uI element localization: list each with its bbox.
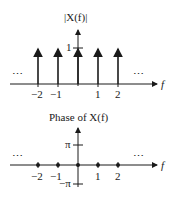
phase-ellipsis-right: ⋯ xyxy=(133,151,144,162)
magnitude-x-axis-label: f xyxy=(161,79,164,90)
phase-y-tick-top: π xyxy=(65,139,71,150)
phase-x-tick-label: 2 xyxy=(115,171,121,182)
magnitude-x-tick-label: −2 xyxy=(31,89,43,100)
magnitude-ellipsis-left: ⋯ xyxy=(12,69,23,80)
magnitude-x-tick-label: −1 xyxy=(50,89,62,100)
magnitude-ellipsis-right: ⋯ xyxy=(133,69,144,80)
phase-x-tick-label: −1 xyxy=(50,171,62,182)
phase-x-tick-label: −2 xyxy=(31,171,43,182)
impulse-arrows xyxy=(38,49,118,84)
phase-ellipsis-left: ⋯ xyxy=(12,151,23,162)
magnitude-title: |X(f)| xyxy=(64,12,87,23)
magnitude-y-tick-label: 1 xyxy=(66,42,72,53)
magnitude-x-tick-label: 1 xyxy=(95,89,101,100)
phase-title: Phase of X(f) xyxy=(49,112,108,123)
magnitude-x-tick-label: 2 xyxy=(115,89,121,100)
spectrum-diagram xyxy=(0,0,174,206)
phase-x-axis-label: f xyxy=(161,160,164,171)
phase-x-tick-label: 1 xyxy=(95,171,101,182)
